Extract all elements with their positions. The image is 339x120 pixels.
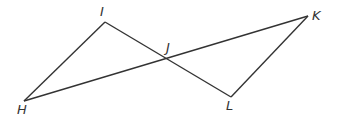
label-I: I <box>100 5 104 18</box>
label-J: J <box>166 41 170 54</box>
label-H: H <box>17 103 27 116</box>
label-K: K <box>312 9 321 22</box>
triangle-figure <box>0 0 339 120</box>
geometry-diagram: I J K H L <box>0 0 339 120</box>
label-L: L <box>226 99 233 112</box>
segment-IL <box>105 22 231 97</box>
